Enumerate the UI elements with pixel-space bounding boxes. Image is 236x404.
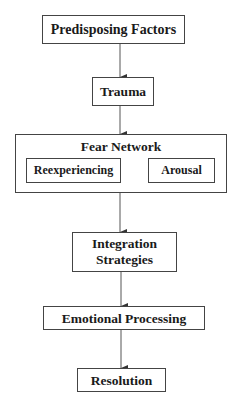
node-trauma: Trauma bbox=[92, 77, 154, 106]
node-label: Reexperiencing bbox=[34, 163, 113, 178]
node-integration-strategies: Integration Strategies bbox=[72, 232, 177, 272]
node-label: Resolution bbox=[91, 373, 153, 388]
node-arousal: Arousal bbox=[148, 158, 215, 183]
node-reexperiencing: Reexperiencing bbox=[26, 158, 121, 183]
node-resolution: Resolution bbox=[77, 368, 166, 392]
node-predisposing-factors: Predisposing Factors bbox=[42, 15, 185, 44]
connector-layer bbox=[0, 0, 236, 404]
node-label: Trauma bbox=[100, 84, 146, 99]
node-label-line-2: Strategies bbox=[96, 252, 153, 268]
fear-network-title: Fear Network bbox=[16, 139, 226, 155]
node-label: Arousal bbox=[161, 163, 201, 178]
node-fear-network: Fear Network Reexperiencing Arousal bbox=[15, 134, 227, 193]
node-label-line-1: Integration bbox=[92, 236, 157, 252]
node-label: Predisposing Factors bbox=[51, 22, 176, 37]
node-emotional-processing: Emotional Processing bbox=[43, 306, 205, 330]
node-label: Emotional Processing bbox=[62, 311, 187, 326]
